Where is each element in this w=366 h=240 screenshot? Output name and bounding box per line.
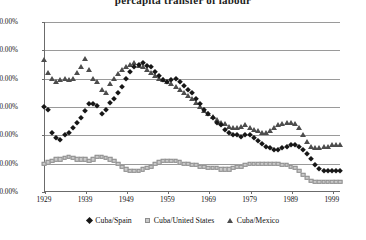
- x-axis-label: 1959: [150, 196, 184, 204]
- legend-label: Cuba/United States: [154, 216, 214, 225]
- x-axis-label: 1929: [27, 196, 61, 204]
- x-axis-tick: [86, 191, 87, 194]
- legend-label: Cuba/Mexico: [237, 216, 279, 225]
- data-point-triangle: [86, 67, 92, 72]
- y-axis-tick: [42, 22, 45, 23]
- data-point-triangle: [45, 70, 51, 75]
- x-axis-tick: [333, 191, 334, 194]
- data-point-triangle: [300, 132, 306, 137]
- x-axis-tick: [45, 191, 46, 194]
- y-axis-tick: [42, 79, 45, 80]
- chart-container: percapita transfer of labour 0.00%20.00%…: [0, 0, 366, 240]
- gridline: [45, 79, 340, 80]
- legend-triangle-icon: [227, 218, 233, 223]
- legend-item[interactable]: Cuba/Spain: [87, 216, 132, 225]
- gridline: [45, 135, 340, 136]
- data-point-triangle: [82, 56, 88, 61]
- gridline: [45, 107, 340, 108]
- x-axis-label: 1979: [233, 196, 267, 204]
- legend-item[interactable]: Cuba/Mexico: [227, 216, 279, 225]
- x-axis-tick: [251, 191, 252, 194]
- x-axis-tick: [168, 191, 169, 194]
- x-axis-tick: [127, 191, 128, 194]
- x-axis-label: 1939: [68, 196, 102, 204]
- data-point-triangle: [337, 142, 343, 147]
- data-point-triangle: [107, 81, 113, 86]
- x-axis-tick: [292, 191, 293, 194]
- y-axis-label: 100.00%: [0, 47, 18, 54]
- y-axis-label: 80.00%: [0, 75, 18, 82]
- legend-diamond-icon: [86, 217, 93, 224]
- y-axis-tick: [42, 135, 45, 136]
- y-axis-label: 20.00%: [0, 160, 18, 167]
- y-axis-label: 120.00%: [0, 19, 18, 26]
- gridline: [45, 22, 340, 23]
- legend-label: Cuba/Spain: [95, 216, 131, 225]
- legend-item[interactable]: Cuba/United States: [145, 216, 215, 225]
- x-axis-tick: [209, 191, 210, 194]
- data-point-triangle: [70, 76, 76, 81]
- gridline: [45, 50, 340, 51]
- data-point-square: [338, 180, 343, 184]
- y-axis-label: 40.00%: [0, 132, 18, 139]
- x-axis-label: 1999: [315, 196, 349, 204]
- y-axis-tick: [42, 50, 45, 51]
- x-axis-label: 1949: [109, 196, 143, 204]
- chart-title: percapita transfer of labour: [0, 0, 366, 6]
- x-axis-label: 1989: [274, 196, 308, 204]
- data-point-triangle: [94, 78, 100, 83]
- data-point-triangle: [78, 64, 84, 69]
- data-point-triangle: [296, 125, 302, 130]
- legend-square-icon: [145, 218, 151, 223]
- chart-legend: Cuba/SpainCuba/United StatesCuba/Mexico: [0, 216, 366, 225]
- data-point-triangle: [41, 57, 47, 62]
- x-axis-label: 1969: [191, 196, 225, 204]
- y-axis-label: 0.00%: [0, 189, 18, 196]
- data-point-triangle: [74, 70, 80, 75]
- data-point-triangle: [103, 90, 109, 95]
- y-axis-label: 60.00%: [0, 104, 18, 111]
